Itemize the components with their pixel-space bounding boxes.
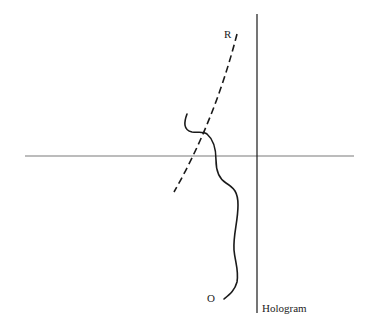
diagram-graphic bbox=[0, 0, 367, 335]
hologram-label: Hologram bbox=[262, 303, 307, 314]
object-wavefront-curve bbox=[185, 114, 238, 299]
object-label: O bbox=[207, 293, 215, 304]
reference-wave-label: R bbox=[224, 29, 231, 40]
hologram-diagram: R O Hologram bbox=[0, 0, 367, 335]
reference-wavefront-dashed-curve bbox=[174, 34, 237, 192]
